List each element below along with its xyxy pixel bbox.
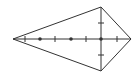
kite-diagram bbox=[0, 0, 140, 78]
point-dot bbox=[38, 37, 42, 41]
kite-figure bbox=[13, 7, 131, 71]
point-dot bbox=[69, 37, 73, 41]
point-dot bbox=[99, 37, 103, 41]
